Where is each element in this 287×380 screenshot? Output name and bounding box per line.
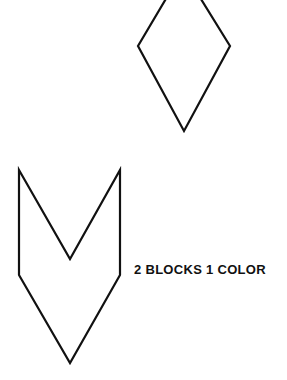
diamond-shape — [138, 0, 230, 131]
chevron-block-shape — [19, 170, 120, 363]
caption-label: 2 BLOCKS 1 COLOR — [134, 262, 266, 277]
diagram-canvas — [0, 0, 287, 380]
